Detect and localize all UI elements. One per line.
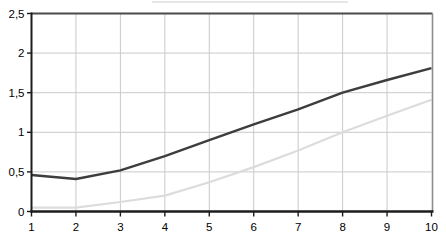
- x-tick-label: 2: [73, 221, 79, 233]
- y-tick-label: 1,5: [9, 87, 25, 99]
- line-chart: 00,511,522,512345678910: [0, 0, 446, 242]
- x-tick-label: 7: [295, 221, 301, 233]
- x-tick-label: 5: [206, 221, 212, 233]
- x-tick-label: 8: [339, 221, 345, 233]
- x-tick-label: 9: [384, 221, 390, 233]
- series-light: [32, 100, 432, 208]
- top-artifact: [152, 1, 348, 3]
- chart-plot-area: 00,511,522,512345678910: [0, 0, 446, 242]
- x-tick-label: 10: [425, 221, 438, 233]
- y-tick-label: 1: [18, 126, 24, 138]
- x-tick-label: 6: [251, 221, 257, 233]
- y-tick-label: 0,5: [9, 166, 25, 178]
- x-tick-label: 3: [117, 221, 123, 233]
- y-tick-label: 2,5: [9, 8, 25, 20]
- y-tick-label: 0: [18, 206, 24, 218]
- y-tick-label: 2: [18, 47, 24, 59]
- series-dark: [32, 68, 432, 179]
- x-tick-label: 1: [28, 221, 34, 233]
- x-tick-label: 4: [162, 221, 169, 233]
